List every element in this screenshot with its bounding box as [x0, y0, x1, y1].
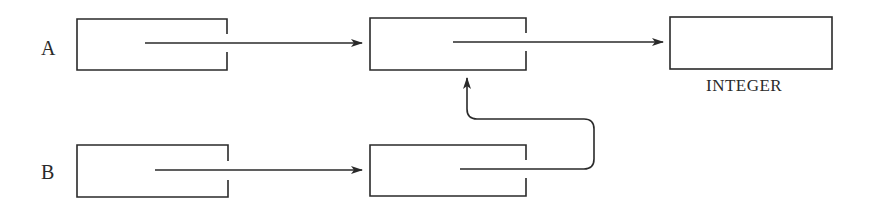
box-a2 — [370, 18, 526, 70]
integer-type-caption: INTEGER — [706, 76, 782, 96]
variable-label-b: B — [41, 161, 54, 184]
box-b2 — [370, 145, 526, 196]
box-b1 — [77, 145, 228, 197]
pointer-b2-to-a2 — [460, 78, 594, 169]
box-a1 — [77, 19, 227, 70]
variable-label-a: A — [41, 37, 55, 60]
box-integer — [670, 17, 832, 69]
pointer-diagram — [0, 0, 871, 209]
